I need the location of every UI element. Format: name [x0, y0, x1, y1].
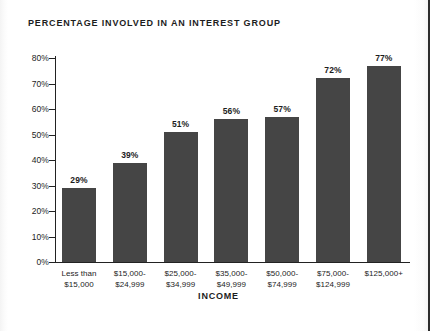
y-axis-tick [49, 211, 56, 212]
y-axis-tick-label: 20% [3, 206, 49, 216]
x-axis-line [55, 262, 410, 263]
y-axis-tick-label: 50% [3, 130, 49, 140]
y-axis-tick-label: 80% [3, 53, 49, 63]
x-axis-tick-label: $25,000-$34,999 [165, 268, 197, 290]
x-axis-tick-label-line: $25,000- [165, 268, 197, 279]
bar-chart-plot-area: 0%10%20%30%40%50%60%70%80%29%Less than$1… [0, 0, 437, 331]
x-axis-tick-label-line: $49,999 [215, 279, 247, 290]
x-axis-tick-label-line: Less than [61, 268, 96, 279]
bar-value-label: 57% [274, 104, 291, 114]
bar-value-label: 29% [70, 175, 87, 185]
y-axis-tick-label: 10% [3, 232, 49, 242]
bar-value-label: 72% [324, 65, 341, 75]
y-axis-tick-label: 0% [3, 257, 49, 267]
x-axis-tick-label-line: $124,999 [316, 279, 350, 290]
x-axis-tick-label: Less than$15,000 [61, 268, 96, 290]
bar [265, 117, 299, 262]
x-axis-tick-label-line: $15,000 [61, 279, 96, 290]
x-axis-tick-label-line: $50,000- [266, 268, 298, 279]
x-axis-tick-label: $15,000-$24,999 [114, 268, 146, 290]
x-axis-tick-label-line: $24,999 [114, 279, 146, 290]
x-axis-tick-label: $50,000-$74,999 [266, 268, 298, 290]
bar [113, 163, 147, 262]
chart-page: PERCENTAGE INVOLVED IN AN INTEREST GROUP… [0, 0, 437, 331]
x-axis-tick-label-line: $125,000+ [365, 268, 404, 279]
x-axis-tick-label: $75,000-$124,999 [316, 268, 350, 290]
y-axis-tick [49, 237, 56, 238]
y-axis-tick-label: 70% [3, 79, 49, 89]
bar [62, 188, 96, 262]
x-axis-title: INCOME [0, 291, 437, 301]
bar [214, 119, 248, 262]
x-axis-tick-label-line: $75,000- [316, 268, 350, 279]
x-axis-tick-label: $125,000+ [365, 268, 404, 279]
x-axis-tick-label-line: $34,999 [165, 279, 197, 290]
y-axis-tick-label: 30% [3, 181, 49, 191]
bar-value-label: 39% [121, 150, 138, 160]
bar-value-label: 56% [223, 106, 240, 116]
y-axis-tick [49, 58, 56, 59]
y-axis-tick [49, 262, 56, 263]
bar-value-label: 77% [375, 53, 392, 63]
y-axis-tick-label: 60% [3, 104, 49, 114]
bar [316, 78, 350, 262]
x-axis-tick-label-line: $35,000- [215, 268, 247, 279]
x-axis-tick-label-line: $74,999 [266, 279, 298, 290]
y-axis-tick [49, 135, 56, 136]
bar [164, 132, 198, 262]
x-axis-tick-label-line: $15,000- [114, 268, 146, 279]
y-axis-tick [49, 109, 56, 110]
y-axis-tick [49, 186, 56, 187]
y-axis-tick-label: 40% [3, 155, 49, 165]
y-axis-tick [49, 160, 56, 161]
x-axis-tick-label: $35,000-$49,999 [215, 268, 247, 290]
bar [367, 66, 401, 262]
bar-value-label: 51% [172, 119, 189, 129]
y-axis-tick [49, 84, 56, 85]
